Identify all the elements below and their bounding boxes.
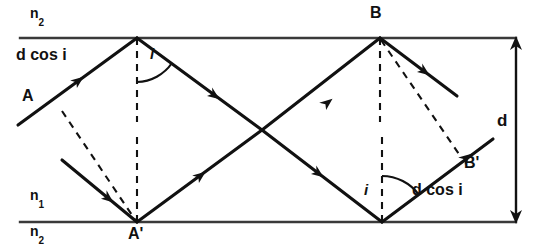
label-point-B: B [370,5,382,21]
ray-second-incident [62,160,137,222]
diagram-canvas [0,0,538,250]
perpendicular-B-to-B-prime-dashed [381,40,461,157]
perpendicular-A-to-A-prime-dashed [62,111,136,221]
ray-crossing-to-B [262,38,380,130]
label-n1-bottom: n1 [30,188,44,206]
label-angle-i-top: i [150,46,154,61]
label-angle-i-bottom: i [364,182,368,197]
label-point-B-prime: B' [464,155,479,171]
ray-crossing-to-B-arrowhead-icon [319,95,335,111]
label-n1-bottom-base: n [30,187,39,203]
ray-top-left-to-crossing [137,38,262,130]
label-point-A: A [22,88,34,104]
label-n2-bottom-subscript: 2 [39,235,45,246]
label-thickness-d: d [497,112,507,129]
label-point-A-prime: A' [128,226,143,242]
label-n2-top-subscript: 2 [39,17,45,28]
label-n2-top-base: n [30,5,39,21]
label-n2-top: n2 [30,6,44,24]
angle-arc-top-left [137,63,172,82]
ray-from-B-down-right [380,38,457,96]
label-d-cos-i-right: d cos i [412,182,463,198]
optics-ray-diagram-figure: n2 d cos i A i B d B' d cos i i n1 n2 A' [0,0,538,250]
label-d-cos-i-left: d cos i [16,47,67,63]
label-n2-bottom: n2 [30,224,44,242]
label-n2-bottom-base: n [30,223,39,239]
label-n1-bottom-subscript: 1 [39,199,45,210]
